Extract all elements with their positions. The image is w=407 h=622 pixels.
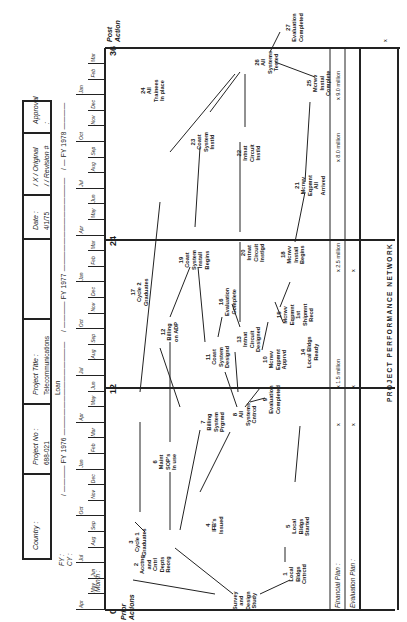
node-21: 21Mcrwv Eqpmnt All Arrived — [294, 175, 326, 196]
node-9: 9Evaluation Completed — [262, 385, 281, 414]
node-20: 20Intnat Circuit Instlgd — [240, 244, 266, 262]
node-11: 11Coast System Designd — [205, 346, 231, 368]
financial-mark-0: x — [335, 423, 341, 426]
node-23: 23Coast System Instld — [190, 132, 216, 152]
node-22: 22Intnat Circuit Instld — [236, 144, 262, 162]
node-survey-design: Survey and Design Study — [232, 591, 258, 610]
node-7: 7Billing System Prgrmd — [200, 412, 226, 432]
node-16: 16Evaluation Complete — [218, 288, 237, 316]
node-26: 26All Systems Tested — [254, 51, 280, 74]
node-15: 15Mcrwv Eqpmnt 1st Shipmnt Recd — [276, 304, 314, 326]
node-25: 25Mcrwv Instal Complete — [306, 71, 332, 97]
node-19: 19Coast System Install Begins — [178, 250, 210, 270]
evaluation-plan-label: Evaluation Plan : — [349, 559, 356, 608]
node-8: 8All Systems Cntrcd — [232, 403, 258, 426]
node-27: 27Evaluation Completed — [285, 13, 304, 42]
financial-mark-3: x 8.0 million — [335, 133, 341, 162]
node-24: 24All Trainees In place — [140, 79, 166, 102]
node-3: 3Cycle 1 Graduates — [128, 528, 147, 556]
financial-mark-1: x 1.5 million — [335, 359, 341, 388]
financial-mark-4: x 9.0 million — [335, 71, 341, 100]
node-6: 6Maint SOP's In use — [152, 454, 178, 470]
financial-mark-2: x 2.5 million — [335, 243, 341, 272]
node-17: 17Cycle 2 Graduates — [130, 278, 149, 306]
node-1: 1Local Bldgs Cntrctd — [282, 564, 308, 584]
node-13: 13Intnat Circuit Designed — [236, 327, 262, 352]
financial-plan-label: Financial Plan : — [334, 564, 341, 608]
node-4: 4IFB's Issued — [205, 516, 224, 534]
evaluation-mark-0: x — [350, 423, 356, 426]
evaluation-mark-1: x — [350, 385, 356, 388]
network-lines — [0, 0, 407, 622]
node-5: 5Local Bldgs Started — [285, 517, 311, 536]
node-14: 14Local Bldgs Ready — [300, 336, 319, 368]
project-performance-network-sheet: Country : Project No : 688-021 Project T… — [0, 0, 407, 622]
node-10: 10Mcrwv Eqpmnt Apprvd — [262, 349, 288, 370]
evaluation-mark-3: x — [382, 39, 388, 42]
evaluation-mark-2: x — [350, 269, 356, 272]
node-12: 12Billing on ADP — [160, 322, 179, 342]
node-2: 2Acctng and Cntrl Depts Reorg — [133, 555, 171, 574]
document-title: PROJECT PERFORMANCE NETWORK — [386, 243, 393, 402]
node-18: 18Mcrwv Install Begins — [280, 245, 306, 264]
